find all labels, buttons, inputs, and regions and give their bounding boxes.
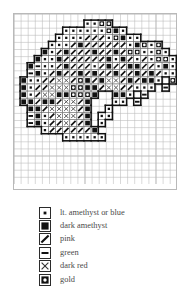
dash-symbol-icon xyxy=(39,247,51,259)
slash-symbol-icon xyxy=(39,233,51,245)
legend-item-label: gold xyxy=(60,275,75,285)
circle-symbol-icon xyxy=(39,274,51,286)
dot-symbol-icon xyxy=(39,207,51,219)
legend-item-label: dark red xyxy=(60,261,88,271)
pattern-cells xyxy=(13,13,177,190)
square-symbol-icon xyxy=(39,220,51,232)
legend-item-dash: green xyxy=(39,246,179,259)
legend-item-slash: pink xyxy=(39,233,179,246)
legend-item-dot: lt. amethyst or blue xyxy=(39,206,179,219)
legend-item-label: pink xyxy=(60,234,75,244)
pattern-chart xyxy=(13,13,177,190)
legend: lt. amethyst or bluedark amethystpinkgre… xyxy=(39,206,179,286)
cross-symbol-icon xyxy=(39,260,51,272)
legend-item-square: dark amethyst xyxy=(39,219,179,232)
legend-item-label: dark amethyst xyxy=(60,221,107,231)
legend-item-cross: dark red xyxy=(39,260,179,273)
legend-item-circle: gold xyxy=(39,273,179,286)
legend-item-label: green xyxy=(60,248,79,258)
legend-item-label: lt. amethyst or blue xyxy=(60,208,125,218)
